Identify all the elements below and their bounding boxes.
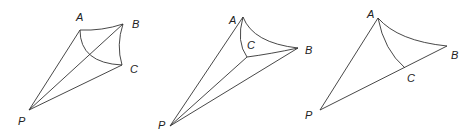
label-B: B <box>132 18 139 30</box>
figure-3: A B C P <box>305 8 458 121</box>
label-C: C <box>407 72 415 84</box>
label-A: A <box>75 11 83 23</box>
arc-AB <box>80 24 123 30</box>
edge-PB <box>170 48 298 126</box>
figure-2: A B C P <box>158 14 312 131</box>
label-B: B <box>451 49 458 61</box>
edge-PA <box>320 18 378 110</box>
figure-1: A B C P <box>18 11 139 127</box>
label-P: P <box>18 115 26 127</box>
arc-AC <box>378 18 405 68</box>
label-P: P <box>158 119 166 131</box>
label-P: P <box>305 109 313 121</box>
arc-AB <box>378 18 447 46</box>
label-A: A <box>366 8 374 20</box>
label-A: A <box>228 14 236 26</box>
arc-AC <box>80 30 122 65</box>
spherical-triangle-diagrams: A B C P A B C P A B C P <box>0 0 476 131</box>
edge-PC <box>170 57 247 126</box>
label-C: C <box>247 39 255 51</box>
arc-BC <box>119 24 123 65</box>
edge-PA <box>170 17 243 126</box>
label-B: B <box>305 44 312 56</box>
edge-PB <box>320 46 447 110</box>
label-C: C <box>130 63 138 75</box>
